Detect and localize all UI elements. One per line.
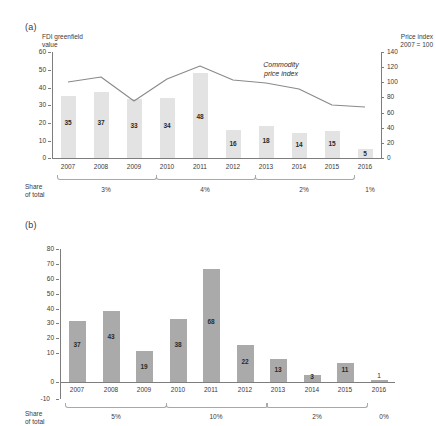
panel-b-xtick-2011: 2011 — [196, 386, 226, 393]
panel-b-ytick-80 — [56, 249, 59, 250]
panel-a-xtick-2009: 2009 — [119, 163, 149, 170]
bar-b-2007 — [69, 321, 86, 382]
bar-b-2010-value: 38 — [163, 341, 193, 348]
panel-a-share-1: 3% — [86, 186, 126, 193]
panel-b-xtick-2013: 2013 — [263, 386, 293, 393]
bar-a-2012-value: 16 — [218, 140, 248, 147]
panel-b-ytick-label-30: 30 — [34, 319, 54, 326]
panel-b-xtick-2008: 2008 — [96, 386, 126, 393]
panel-a-xtick-2010: 2010 — [152, 163, 182, 170]
panel-b-share-bracket-3 — [266, 403, 368, 408]
panel-b-xtick-2012: 2012 — [230, 386, 260, 393]
bar-a-2013-value: 18 — [251, 137, 281, 144]
commodity-price-index-label: Commodity price index — [246, 60, 316, 78]
panel-a: (a) FDI greenfield value Price index 200… — [0, 0, 436, 214]
bar-b-2016 — [371, 380, 388, 382]
panel-a-share-label: Share of total — [25, 183, 45, 199]
panel-b-ytick-50 — [56, 294, 59, 295]
panel-a-xtick-2007: 2007 — [53, 163, 83, 170]
bar-a-2011-value: 48 — [185, 113, 215, 120]
bar-b-2009-value: 19 — [129, 363, 159, 370]
panel-a-xtick-2008: 2008 — [86, 163, 116, 170]
bar-a-2010-value: 34 — [152, 122, 182, 129]
bar-a-2008-value: 37 — [86, 119, 116, 126]
panel-a-xtick-2016: 2016 — [350, 163, 380, 170]
panel-a-share-bracket-3 — [255, 175, 355, 180]
bar-a-2016-value: 5 — [350, 150, 380, 157]
bar-b-2010 — [170, 319, 187, 382]
panel-b-ytick-10 — [56, 353, 59, 354]
panel-a-share-2: 4% — [185, 186, 225, 193]
panel-a-xtick-2011: 2011 — [185, 163, 215, 170]
bar-a-2015-value: 15 — [317, 140, 347, 147]
panel-b-baseline — [60, 382, 395, 383]
panel-b-ytick-30 — [56, 323, 59, 324]
panel-b-plot-area: 80 70 60 50 40 30 20 10 0 -10 37 43 19 3… — [0, 214, 436, 426]
panel-b-share-bracket-2 — [166, 403, 268, 408]
panel-b-ytick-label-10: 10 — [34, 349, 54, 356]
panel-b-ytick-40 — [56, 309, 59, 310]
bar-b-2007-value: 37 — [62, 341, 92, 348]
panel-a-xtick-2012: 2012 — [218, 163, 248, 170]
panel-b-share-3: 2% — [297, 413, 337, 420]
panel-b-ytick-20 — [56, 338, 59, 339]
panel-b-ytick-label-20: 20 — [34, 334, 54, 341]
panel-a-xtick-2015: 2015 — [317, 163, 347, 170]
commodity-price-index-line — [0, 0, 436, 214]
panel-b-left-axis — [60, 249, 61, 399]
panel-b-share-label: Share of total — [25, 410, 45, 426]
panel-b-xtick-2016: 2016 — [364, 386, 394, 393]
panel-b-xtick-2014: 2014 — [297, 386, 327, 393]
bar-b-2008 — [103, 311, 120, 382]
bar-a-2014-value: 14 — [284, 141, 314, 148]
panel-a-share-bracket-2 — [156, 175, 256, 180]
panel-b-ytick-label-60: 60 — [34, 275, 54, 282]
bar-b-2016-value: 1 — [364, 372, 394, 379]
panel-b-ytick-label-70: 70 — [34, 260, 54, 267]
bar-a-2009-value: 33 — [119, 122, 149, 129]
panel-b-xtick-2009: 2009 — [129, 386, 159, 393]
bar-b-2008-value: 43 — [96, 333, 126, 340]
panel-b-ytick-label-minus10: -10 — [30, 395, 50, 402]
panel-b-ytick-label-0: 0 — [34, 378, 54, 385]
panel-b: (b) 80 70 60 50 40 30 20 10 0 -10 — [0, 214, 436, 426]
panel-a-plot-area: 60 50 40 30 20 10 0 140 120 100 80 60 40… — [0, 0, 436, 214]
bar-b-2011 — [203, 269, 220, 382]
bar-b-2013-value: 13 — [263, 366, 293, 373]
panel-b-ytick-minus10 — [56, 399, 59, 400]
panel-a-share-4: 1% — [350, 186, 390, 193]
bar-b-2014-value: 3 — [297, 373, 327, 380]
panel-b-share-2: 10% — [196, 413, 236, 420]
panel-b-ytick-label-40: 40 — [34, 305, 54, 312]
panel-b-ytick-label-50: 50 — [34, 290, 54, 297]
panel-b-xtick-2010: 2010 — [163, 386, 193, 393]
bar-b-2012-value: 22 — [230, 358, 260, 365]
bar-a-2007-value: 35 — [53, 119, 83, 126]
panel-b-xtick-2007: 2007 — [62, 386, 92, 393]
bar-b-2015-value: 11 — [330, 366, 360, 373]
panel-b-ytick-70 — [56, 264, 59, 265]
panel-b-share-1: 5% — [96, 413, 136, 420]
bar-b-2011-value: 68 — [196, 318, 226, 325]
panel-b-ytick-0 — [56, 382, 59, 383]
panel-b-ytick-label-80: 80 — [34, 245, 54, 252]
panel-b-ytick-60 — [56, 279, 59, 280]
panel-b-share-bracket-1 — [65, 403, 167, 408]
panel-a-share-bracket-1 — [57, 175, 157, 180]
panel-a-xtick-2014: 2014 — [284, 163, 314, 170]
panel-a-xtick-2013: 2013 — [251, 163, 281, 170]
panel-b-xtick-2015: 2015 — [330, 386, 360, 393]
panel-b-share-4: 0% — [364, 413, 404, 420]
panel-a-share-3: 2% — [284, 186, 324, 193]
